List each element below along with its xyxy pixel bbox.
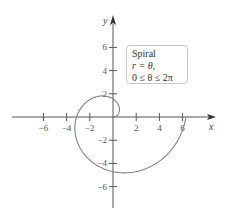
x-tick-label: −2 <box>85 123 95 133</box>
y-axis-label: y <box>102 15 108 26</box>
y-tick-label: 4 <box>103 66 108 76</box>
x-tick-label: −6 <box>39 123 49 133</box>
spiral-curve <box>75 96 186 173</box>
y-tick-label: 6 <box>103 42 108 52</box>
legend-title: Spiral <box>132 48 187 60</box>
x-axis-label: x <box>208 121 214 132</box>
x-tick-label: −4 <box>62 123 72 133</box>
x-tick-label: 2 <box>134 123 139 133</box>
legend-equation: r = θ, <box>132 60 187 72</box>
y-tick-label: −2 <box>97 135 107 145</box>
y-tick-label: 2 <box>103 89 108 99</box>
y-axis-arrow-icon <box>110 15 116 25</box>
plot-area: −6−4−2246642−2−4−6 x y <box>0 0 227 216</box>
legend-range: 0 ≤ θ ≤ 2π <box>132 72 187 84</box>
x-tick-label: 4 <box>157 123 162 133</box>
spiral-chart: −6−4−2246642−2−4−6 x y Spiral r = θ, 0 ≤… <box>0 0 227 216</box>
axes <box>12 15 216 208</box>
legend-annotation: Spiral r = θ, 0 ≤ θ ≤ 2π <box>126 45 188 84</box>
y-tick-label: −6 <box>97 182 107 192</box>
